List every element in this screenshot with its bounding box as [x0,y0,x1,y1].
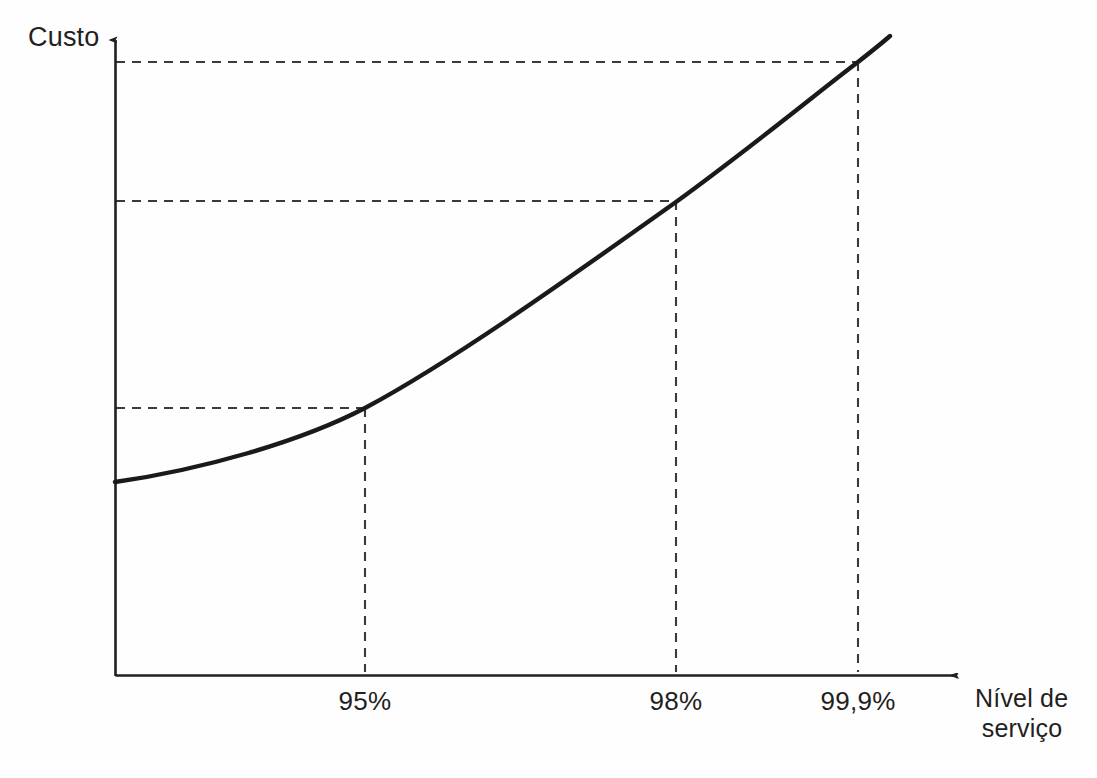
cost-curve [115,36,890,482]
x-axis-title: Nível de serviço [975,684,1068,743]
guide-lines-horizontal [116,62,858,408]
x-axis-title-line-2: serviço [975,714,1068,744]
x-tick-label-95: 95% [339,686,392,717]
x-tick-label-99-9: 99,9% [820,686,895,717]
y-axis-title: Custo [28,22,100,54]
x-tick-label-98: 98% [650,686,703,717]
x-axis-title-line-1: Nível de [975,684,1068,714]
chart-canvas [0,0,1097,778]
cost-vs-service-level-chart: Custo Nível de serviço 95% 98% 99,9% [0,0,1097,778]
